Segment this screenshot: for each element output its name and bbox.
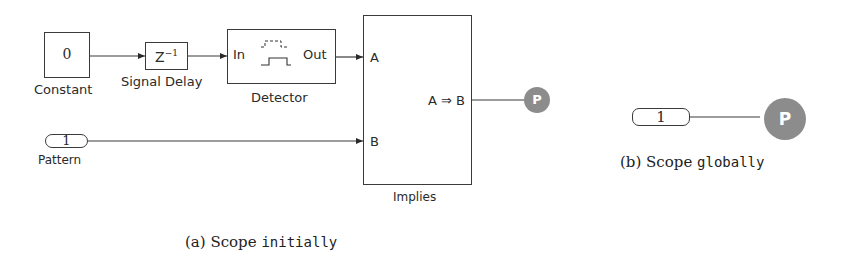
caption-a: (a) Scope initially: [185, 233, 337, 251]
implies-port-b: B: [370, 134, 379, 149]
property-badge: P: [524, 87, 550, 113]
b-pattern-input: 1: [632, 108, 690, 126]
detector-in-port: In: [233, 47, 245, 62]
delay-symbol: Z−1: [146, 48, 187, 65]
detector-label: Detector: [251, 90, 308, 105]
signal-delay-label: Signal Delay: [121, 74, 202, 89]
constant-value: 0: [45, 46, 89, 62]
detector-out-port: Out: [303, 47, 327, 62]
implies-block: A B A ⇒ B: [363, 15, 472, 185]
constant-block: 0: [44, 32, 90, 78]
implies-expression: A ⇒ B: [428, 93, 465, 108]
constant-label: Constant: [34, 82, 92, 97]
edge-detect-waveform-icon: [259, 37, 299, 73]
caption-b: (b) Scope globally: [620, 153, 764, 171]
detector-block: In Out: [227, 29, 336, 84]
b-property-badge: P: [764, 98, 806, 140]
implies-label: Implies: [393, 190, 436, 204]
pattern-input: 1: [45, 134, 88, 148]
pattern-label: Pattern: [38, 153, 81, 167]
implies-port-a: A: [370, 50, 379, 65]
signal-delay-block: Z−1: [145, 42, 188, 70]
